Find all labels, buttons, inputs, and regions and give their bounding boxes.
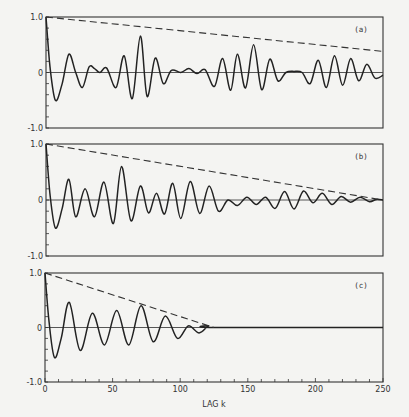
x-tick-label: 200 <box>308 385 323 394</box>
y-tick-label: -1.0 <box>27 124 43 133</box>
x-tick-label: 100 <box>173 385 188 394</box>
y-tick-label: 0 <box>37 324 42 333</box>
y-tick-label: 1.0 <box>30 140 43 149</box>
acf-curve <box>46 17 383 101</box>
acf-figure: 1.00-1.0(a)1.00-1.0(b)050100150200250LAG… <box>0 0 409 417</box>
x-axis-label: LAG k <box>202 400 226 409</box>
x-tick-label: 250 <box>375 385 390 394</box>
envelope-line <box>45 273 214 328</box>
envelope-line <box>46 144 383 200</box>
y-tick-label: 0 <box>38 69 43 78</box>
x-tick-label: 0 <box>42 385 47 394</box>
panel-label: (b) <box>354 152 368 161</box>
acf-curve <box>46 144 383 228</box>
y-tick-label: -1.0 <box>26 378 42 387</box>
x-tick-label: 50 <box>108 385 118 394</box>
acf-curve <box>45 273 383 358</box>
envelope-line <box>46 17 383 51</box>
y-tick-label: -1.0 <box>27 252 43 261</box>
panel-c: 050100150200250LAG k1.00-1.0(c) <box>26 269 390 409</box>
y-tick-label: 0 <box>38 196 43 205</box>
panel-label: (a) <box>354 25 368 34</box>
panel-b: 1.00-1.0(b) <box>27 140 383 261</box>
x-tick-label: 150 <box>240 385 255 394</box>
panel-label: (c) <box>354 281 368 290</box>
y-tick-label: 1.0 <box>29 269 42 278</box>
y-tick-label: 1.0 <box>30 13 43 22</box>
panel-a: 1.00-1.0(a) <box>27 13 383 133</box>
